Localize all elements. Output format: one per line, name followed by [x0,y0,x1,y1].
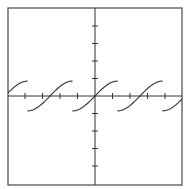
curve-segment [8,81,28,93]
function-plot [0,0,184,189]
curve-segment [162,99,182,111]
